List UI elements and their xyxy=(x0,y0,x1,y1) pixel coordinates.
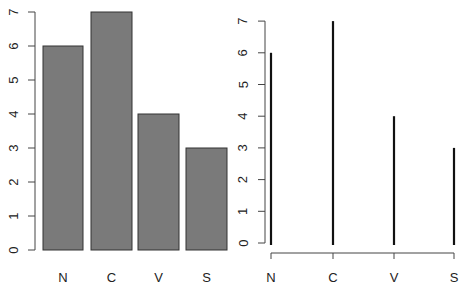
x-category-label: N xyxy=(266,270,275,285)
chart-canvas: 01234567NCVS 01234567NCVS xyxy=(0,0,462,287)
y-tick-label: 3 xyxy=(236,144,251,151)
x-category-label: V xyxy=(154,270,163,285)
y-tick-label: 5 xyxy=(236,81,251,88)
y-tick-label: 3 xyxy=(6,144,21,151)
y-tick-label: 4 xyxy=(6,110,21,117)
bar-v xyxy=(138,114,179,250)
y-tick-label: 6 xyxy=(236,49,251,56)
vertical-line-chart-panel: 01234567NCVS xyxy=(236,17,459,285)
y-tick-label: 2 xyxy=(6,178,21,185)
y-tick-label: 5 xyxy=(6,76,21,83)
bar-s xyxy=(186,148,227,250)
x-category-label: N xyxy=(58,270,67,285)
y-tick-label: 6 xyxy=(6,42,21,49)
bar-n xyxy=(43,46,83,250)
x-category-label: C xyxy=(328,270,337,285)
x-category-label: C xyxy=(107,270,116,285)
y-tick-label: 1 xyxy=(236,208,251,215)
y-tick-label: 0 xyxy=(6,246,21,253)
y-tick-label: 7 xyxy=(6,8,21,15)
y-tick-label: 1 xyxy=(6,212,21,219)
x-category-label: S xyxy=(450,270,459,285)
x-category-label: V xyxy=(390,270,399,285)
y-tick-label: 0 xyxy=(236,239,251,246)
x-category-label: S xyxy=(202,270,211,285)
bar-c xyxy=(91,12,132,250)
y-tick-label: 4 xyxy=(236,113,251,120)
bar-chart-panel: 01234567NCVS xyxy=(6,8,228,285)
y-tick-label: 7 xyxy=(236,17,251,24)
y-tick-label: 2 xyxy=(236,176,251,183)
